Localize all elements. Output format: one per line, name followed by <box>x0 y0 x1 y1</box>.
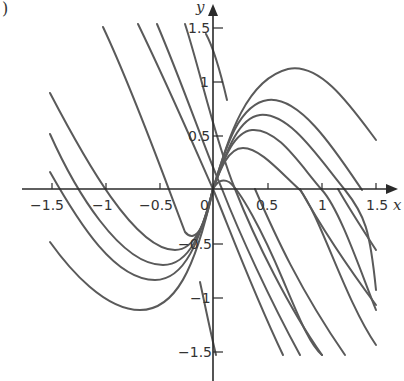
y-tick-label: 1.5 <box>188 20 210 36</box>
x-tick-label: 1 <box>318 197 327 213</box>
x-tick-label: −1 <box>92 197 113 213</box>
x-tick-label: 1.5 <box>366 197 388 213</box>
curve-upper-hump-3 <box>213 115 376 290</box>
x-axis-arrow-icon <box>386 184 398 194</box>
x-tick-label: 0 <box>200 197 209 213</box>
curve-near-axis-upper <box>206 34 227 100</box>
curve-upper-hump-4 <box>213 130 376 310</box>
y-tick-label: 0.5 <box>188 128 210 144</box>
panel-label: ) <box>2 0 8 18</box>
y-tick-label: 1 <box>200 74 209 90</box>
x-tick-label: −1.5 <box>30 197 64 213</box>
y-axis-arrow-icon <box>208 4 218 16</box>
x-tick-label: 0.5 <box>256 197 278 213</box>
y-tick-label: −1.5 <box>178 344 212 360</box>
x-tick-label: −0.5 <box>139 197 173 213</box>
curve-steep-4 <box>255 189 345 355</box>
curve-upper-hump-2 <box>213 100 362 190</box>
curve-upper-hump-1 <box>213 68 376 189</box>
curve-lower-trough-4 <box>50 93 213 250</box>
direction-field-chart: ) <box>0 0 404 381</box>
y-tick-label: −0.5 <box>178 236 212 252</box>
y-tick-label: −1 <box>190 290 211 306</box>
x-axis-label: x <box>393 196 402 214</box>
y-axis-label: y <box>195 0 205 16</box>
curve-steep-5 <box>300 189 376 305</box>
